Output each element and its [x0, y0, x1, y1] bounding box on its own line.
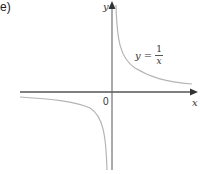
y-axis-label: y: [103, 2, 109, 12]
x-axis-arrow-icon: [190, 89, 198, 96]
equation-lhs: y: [135, 50, 141, 61]
origin-label: 0: [103, 97, 109, 107]
hyperbola-plot: [0, 0, 200, 174]
equation-label: y = 1 x: [135, 45, 163, 66]
equation-equals: =: [144, 50, 152, 61]
fraction-numerator: 1: [156, 45, 162, 54]
equation-fraction: 1 x: [155, 45, 163, 66]
curve-negative-branch: [20, 97, 107, 170]
y-axis-arrow-icon: [109, 1, 116, 9]
fraction-denominator: x: [157, 57, 162, 66]
x-axis-label: x: [192, 98, 198, 108]
